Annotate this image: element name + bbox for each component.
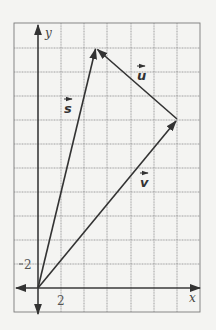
- svg-text:u: u: [137, 68, 146, 83]
- axes: y x 2 2: [16, 25, 200, 314]
- svg-text:v: v: [140, 175, 149, 190]
- vector-v-label: v: [140, 173, 149, 190]
- y-axis-label: y: [44, 26, 52, 40]
- vector-diagram: y x 2 2 s u v: [0, 0, 216, 330]
- vectors: s u v: [38, 49, 177, 288]
- vector-s-label: s: [64, 99, 72, 116]
- y-tick-label: 2: [24, 258, 32, 272]
- x-axis-label: x: [189, 291, 196, 305]
- svg-text:s: s: [64, 101, 72, 116]
- x-tick-label: 2: [57, 294, 65, 308]
- vector-u: [98, 50, 178, 120]
- vector-u-label: u: [137, 66, 146, 83]
